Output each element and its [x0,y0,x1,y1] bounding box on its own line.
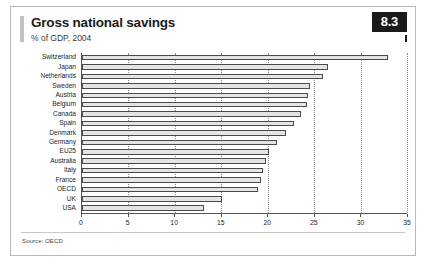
footer-divider [21,232,405,233]
bar-row [82,204,407,213]
bar [82,93,308,99]
bar [82,158,266,164]
axis-tick-label: 15 [217,219,225,226]
axis-tick-label: 30 [357,219,365,226]
bar-row [82,91,407,100]
bars-stack [82,53,407,213]
bar [82,102,307,108]
bar-row [82,194,407,203]
bar-row [82,109,407,118]
category-label: France [21,175,79,184]
bar-row [82,185,407,194]
chart-figure: Gross national savings % of GDP, 2004 8.… [10,6,416,256]
category-label: Germany [21,138,79,147]
category-label: EU25 [21,147,79,156]
bar [82,149,269,155]
gridline [407,53,408,213]
axis-tick [407,214,408,217]
bar-row [82,100,407,109]
source-note: Source: OECD [22,237,63,244]
axis-tick [267,214,268,217]
axis-tick-label: 20 [264,219,272,226]
bar [82,140,277,146]
chart-header: Gross national savings % of GDP, 2004 8.… [11,7,415,51]
bar-row [82,147,407,156]
bar [82,55,388,61]
axis-tick-label: 35 [403,219,411,226]
category-label: USA [21,204,79,213]
axis-tick-label: 10 [170,219,178,226]
axis-tick-label: 25 [310,219,318,226]
plot-area: SwitzerlandJapanNetherlandsSwedenAustria… [21,53,407,225]
bar [82,205,204,211]
category-label: Switzerland [21,53,79,62]
category-label: Netherlands [21,72,79,81]
figure-number-badge: 8.3 [372,12,407,32]
bar [82,121,294,127]
bars-container [81,53,407,213]
bar [82,83,310,89]
axis-tick [174,214,175,217]
axis-tick [128,214,129,217]
bar-row [82,128,407,137]
bar-row [82,175,407,184]
bar-row [82,138,407,147]
page-title: Gross national savings [31,15,175,30]
category-label: Austria [21,91,79,100]
category-label: Italy [21,166,79,175]
category-label: Sweden [21,81,79,90]
category-label: OECD [21,185,79,194]
bar [82,177,261,183]
bar [82,74,323,80]
title-accent-bar [20,16,24,42]
bar [82,130,286,136]
category-axis-labels: SwitzerlandJapanNetherlandsSwedenAustria… [21,53,79,213]
bar [82,196,222,202]
category-label: Japan [21,62,79,71]
axis-tick [81,214,82,217]
bar-row [82,72,407,81]
axis-tick [314,214,315,217]
bar-row [82,166,407,175]
chart-subtitle: % of GDP, 2004 [31,33,91,43]
bar-row [82,156,407,165]
bar-row [82,119,407,128]
axis-tick [221,214,222,217]
badge-tail [405,35,407,42]
axis-tick-label: 0 [79,219,83,226]
value-axis: 05101520253035 [81,213,407,232]
bar [82,187,258,193]
category-label: Belgium [21,100,79,109]
category-label: Canada [21,109,79,118]
category-label: Australia [21,156,79,165]
bar [82,111,301,117]
bar-row [82,53,407,62]
category-label: Spain [21,119,79,128]
bar [82,64,328,70]
bar [82,168,263,174]
category-label: UK [21,194,79,203]
axis-tick [360,214,361,217]
bar-row [82,81,407,90]
bar-row [82,62,407,71]
axis-tick-label: 5 [126,219,130,226]
category-label: Denmark [21,128,79,137]
